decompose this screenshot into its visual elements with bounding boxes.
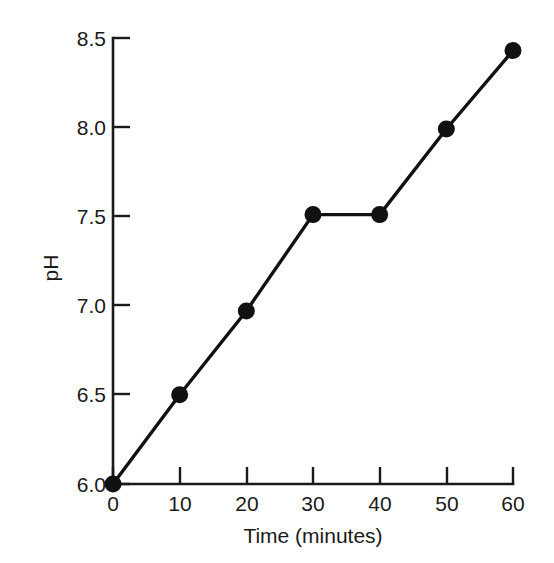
y-tick-label-6-0: 6.0 xyxy=(77,473,106,496)
y-axis-ticks xyxy=(113,38,130,484)
data-point xyxy=(171,386,188,403)
x-tick-label-60: 60 xyxy=(501,492,524,515)
x-axis-title: Time (minutes) xyxy=(243,524,382,547)
y-tick-label-7-5: 7.5 xyxy=(77,205,106,228)
y-tick-label-7-0: 7.0 xyxy=(77,294,106,317)
data-point xyxy=(371,206,388,223)
y-axis-title: pH xyxy=(39,255,62,282)
data-point xyxy=(438,120,455,137)
data-point xyxy=(105,476,122,493)
x-tick-label-10: 10 xyxy=(168,492,191,515)
data-point xyxy=(238,302,255,319)
x-tick-label-40: 40 xyxy=(368,492,391,515)
y-tick-label-6-5: 6.5 xyxy=(77,383,106,406)
x-axis-tick-labels: 0 10 20 30 40 50 60 xyxy=(107,492,525,515)
x-tick-label-0: 0 xyxy=(107,492,119,515)
x-tick-label-50: 50 xyxy=(435,492,458,515)
y-axis-tick-labels: 8.5 8.0 7.5 7.0 6.5 6.0 xyxy=(77,27,106,496)
chart-figure: 8.5 8.0 7.5 7.0 6.5 6.0 0 10 20 30 40 50… xyxy=(0,0,554,563)
y-tick-label-8-5: 8.5 xyxy=(77,27,106,50)
data-point xyxy=(305,206,322,223)
x-tick-label-20: 20 xyxy=(235,492,258,515)
data-series-markers xyxy=(105,42,522,493)
x-tick-label-30: 30 xyxy=(301,492,324,515)
y-tick-label-8-0: 8.0 xyxy=(77,116,106,139)
x-axis-ticks xyxy=(113,467,513,484)
data-series-line xyxy=(113,50,513,484)
data-point xyxy=(505,42,522,59)
axis-lines xyxy=(113,38,513,484)
ph-vs-time-line-chart: 8.5 8.0 7.5 7.0 6.5 6.0 0 10 20 30 40 50… xyxy=(0,0,554,563)
